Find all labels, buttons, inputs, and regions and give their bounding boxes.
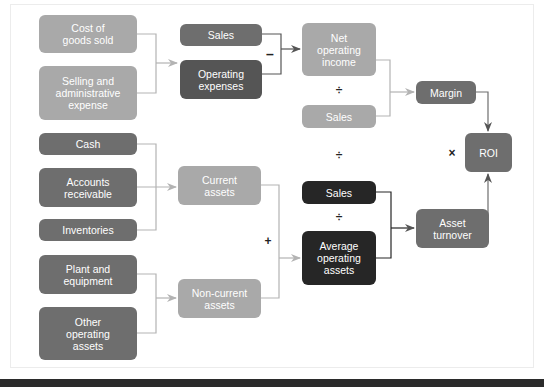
multiply-operator: × (445, 147, 459, 159)
box-selling-admin-expense: Selling and administrative expense (39, 66, 137, 120)
divide-operator-middle: ÷ (332, 149, 346, 161)
box-sales-dark: Sales (302, 181, 376, 204)
divide-operator-turnover: ÷ (332, 211, 346, 223)
box-other-operating-assets: Other operating assets (39, 307, 137, 360)
box-cost-of-goods-sold: Cost of goods sold (39, 15, 137, 53)
box-operating-expenses: Operating expenses (180, 60, 262, 99)
minus-operator: – (263, 48, 277, 60)
divide-operator-margin: ÷ (332, 84, 346, 96)
box-non-current-assets: Non-current assets (178, 279, 261, 318)
box-average-operating-assets: Average operating assets (302, 231, 376, 285)
bottom-bar (0, 379, 544, 387)
box-sales-top: Sales (180, 24, 262, 46)
box-sales-light: Sales (302, 105, 376, 128)
box-net-operating-income: Net operating income (302, 23, 376, 76)
box-roi: ROI (465, 133, 512, 172)
box-asset-turnover: Asset turnover (416, 209, 489, 248)
plus-operator: + (261, 235, 275, 247)
box-cash: Cash (39, 133, 137, 155)
box-margin: Margin (416, 81, 476, 104)
box-plant-equipment: Plant and equipment (39, 255, 137, 294)
box-current-assets: Current assets (178, 166, 261, 205)
box-inventories: Inventories (39, 219, 137, 241)
box-accounts-receivable: Accounts receivable (39, 168, 137, 207)
